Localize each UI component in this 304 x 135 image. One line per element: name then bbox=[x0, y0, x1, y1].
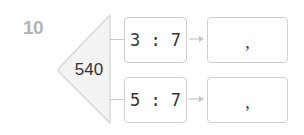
arrow-right-icon bbox=[189, 95, 205, 103]
arrow-right-icon bbox=[189, 35, 205, 43]
ratio-box-1: 3 : 7 bbox=[124, 17, 187, 63]
answer-box-2[interactable]: , bbox=[207, 77, 288, 123]
ratio-text-1: 3 : 7 bbox=[130, 30, 181, 50]
ratio-box-2: 5 : 7 bbox=[124, 77, 187, 123]
ratio-text-2: 5 : 7 bbox=[130, 90, 181, 110]
connector-line-1 bbox=[110, 39, 125, 40]
connector-line-2 bbox=[110, 99, 125, 100]
answer-separator-2: , bbox=[245, 92, 250, 113]
total-value: 540 bbox=[67, 60, 111, 80]
answer-separator-1: , bbox=[245, 32, 250, 53]
answer-box-1[interactable]: , bbox=[207, 17, 288, 63]
